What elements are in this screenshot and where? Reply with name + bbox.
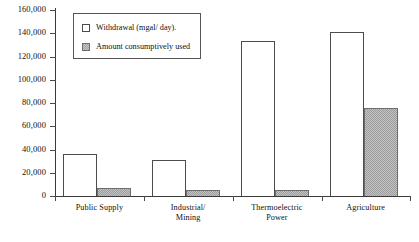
bar-consumptive (186, 190, 220, 196)
y-axis-tick-label: 0 (0, 191, 46, 200)
legend-swatch-withdrawal-icon (82, 24, 90, 32)
bar-consumptive (275, 190, 309, 196)
y-axis-tick (50, 103, 56, 104)
x-axis-separator (55, 196, 56, 201)
x-axis-separator (410, 196, 411, 201)
y-axis-tick-label: 60,000 (0, 121, 46, 130)
bar-withdrawal (241, 41, 275, 196)
y-axis-tick-label: 120,000 (0, 52, 46, 61)
legend-label-withdrawal: Withdrawal (mgal/ day). (96, 23, 176, 32)
legend-entry-withdrawal: Withdrawal (mgal/ day). (82, 23, 176, 32)
y-axis-tick (50, 33, 56, 34)
bar-withdrawal (330, 32, 364, 196)
bar-chart: 160,000140,000120,000100,00080,00060,000… (0, 0, 419, 242)
y-axis-tick-label: 20,000 (0, 168, 46, 177)
x-axis-category-label: Thermoelectric Power (233, 203, 322, 223)
bar-consumptive (364, 108, 398, 196)
y-axis-tick (50, 126, 56, 127)
legend-label-consumptive: Amount consumptively used (96, 42, 190, 51)
y-axis-tick (50, 10, 56, 11)
legend-entry-consumptive: Amount consumptively used (82, 42, 190, 51)
x-axis-category-label: Agriculture (321, 203, 410, 213)
legend-swatch-consumptive-icon (82, 43, 90, 51)
bar-withdrawal (152, 160, 186, 196)
chart-legend: Withdrawal (mgal/ day). Amount consumpti… (73, 13, 201, 59)
bar-consumptive (97, 188, 131, 196)
y-axis-tick-label: 140,000 (0, 28, 46, 37)
y-axis-tick-label: 160,000 (0, 5, 46, 14)
x-axis-separator (233, 196, 234, 201)
x-axis-category-label: Public Supply (55, 203, 144, 213)
y-axis-tick-label: 100,000 (0, 75, 46, 84)
plot-area: 160,000140,000120,000100,00080,00060,000… (0, 0, 419, 242)
y-axis-tick-label: 80,000 (0, 98, 46, 107)
x-axis-separator (144, 196, 145, 201)
bar-withdrawal (63, 154, 97, 196)
y-axis-tick (50, 80, 56, 81)
y-axis-tick (50, 57, 56, 58)
x-axis-category-label: Industrial/ Mining (144, 203, 233, 223)
x-axis-separator (322, 196, 323, 201)
y-axis-tick (50, 150, 56, 151)
y-axis-tick (50, 173, 56, 174)
y-axis-tick-label: 40,000 (0, 145, 46, 154)
